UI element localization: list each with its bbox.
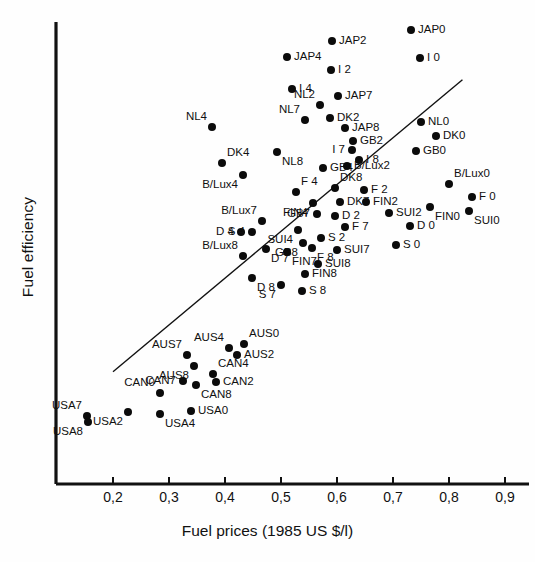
data-point-label: CAN8 bbox=[201, 389, 232, 401]
data-point-label: FIN8 bbox=[312, 268, 337, 280]
data-point bbox=[412, 147, 420, 155]
data-point-label: F 0 bbox=[479, 191, 496, 203]
data-point bbox=[240, 340, 248, 348]
data-point-label: AUS0 bbox=[249, 328, 279, 340]
data-point bbox=[326, 114, 334, 122]
data-point-label: B/Lux8 bbox=[202, 240, 238, 252]
data-point-label: JAP2 bbox=[339, 35, 367, 47]
data-point-label: SUI2 bbox=[396, 207, 422, 219]
data-point bbox=[209, 370, 217, 378]
data-point bbox=[183, 351, 191, 359]
data-point bbox=[416, 54, 424, 62]
data-point bbox=[341, 223, 349, 231]
data-point bbox=[331, 184, 339, 192]
data-point-label: SUI7 bbox=[344, 244, 370, 256]
data-point-label: SUI0 bbox=[474, 215, 500, 227]
x-tick-label: 0,7 bbox=[373, 489, 413, 505]
data-point-label: B/Lux2 bbox=[354, 160, 390, 172]
data-point bbox=[348, 146, 356, 154]
data-point-label: USA8 bbox=[53, 426, 83, 438]
data-point bbox=[331, 212, 339, 220]
data-point bbox=[362, 198, 370, 206]
data-point bbox=[407, 26, 415, 34]
data-point-label: NL0 bbox=[428, 116, 449, 128]
data-point bbox=[385, 209, 393, 217]
data-point-label: JAP8 bbox=[352, 122, 380, 134]
data-point bbox=[298, 287, 306, 295]
data-point bbox=[317, 234, 325, 242]
data-point-label: USA7 bbox=[52, 400, 82, 412]
data-point-label: S 8 bbox=[309, 285, 326, 297]
data-point bbox=[313, 210, 321, 218]
data-point-label: SUI4 bbox=[267, 234, 293, 246]
data-point bbox=[392, 241, 400, 249]
data-point-label: CAN2 bbox=[223, 376, 254, 388]
data-point-label: DK0 bbox=[443, 130, 465, 142]
x-tick-label: 0,6 bbox=[317, 489, 357, 505]
data-point-label: CAN0 bbox=[124, 377, 155, 389]
data-point bbox=[319, 164, 327, 172]
data-point bbox=[225, 344, 233, 352]
data-point-label: DK4 bbox=[227, 147, 249, 159]
data-point-label: FIN2 bbox=[373, 196, 398, 208]
data-point bbox=[208, 123, 216, 131]
data-point bbox=[301, 116, 309, 124]
data-point-label: B/Lux4 bbox=[202, 179, 238, 191]
data-point bbox=[432, 132, 440, 140]
data-point bbox=[292, 188, 300, 196]
data-point bbox=[124, 408, 132, 416]
data-point bbox=[283, 53, 291, 61]
data-point-label: NL8 bbox=[282, 156, 303, 168]
data-point bbox=[190, 362, 198, 370]
data-point bbox=[360, 186, 368, 194]
data-point-label: AUS4 bbox=[194, 332, 224, 344]
data-point bbox=[406, 222, 414, 230]
data-point bbox=[248, 228, 256, 236]
data-point bbox=[465, 207, 473, 215]
data-point-label: S 7 bbox=[259, 289, 276, 301]
data-point-label: NL2 bbox=[294, 89, 315, 101]
data-point bbox=[248, 274, 256, 282]
data-point bbox=[445, 180, 453, 188]
data-point-label: JAP4 bbox=[294, 51, 322, 63]
data-point-label: F 2 bbox=[371, 184, 388, 196]
data-point bbox=[426, 203, 434, 211]
data-point-label: CAN4 bbox=[218, 358, 249, 370]
data-point bbox=[299, 239, 307, 247]
data-point bbox=[308, 244, 316, 252]
scatter-plot-figure: JAP2JAP0JAP4I 0I 2I 4JAP7NL2NL7DK2NL4JAP… bbox=[0, 0, 535, 562]
data-point bbox=[301, 270, 309, 278]
data-point bbox=[341, 124, 349, 132]
data-point-label: D 0 bbox=[417, 220, 435, 232]
data-point bbox=[328, 37, 336, 45]
data-point-label: B/Lux0 bbox=[454, 168, 490, 180]
data-point bbox=[468, 193, 476, 201]
data-point-label: GB2 bbox=[360, 135, 383, 147]
data-point bbox=[316, 101, 324, 109]
data-point bbox=[218, 159, 226, 167]
data-point bbox=[239, 252, 247, 260]
data-point bbox=[179, 377, 187, 385]
data-point-label: USA4 bbox=[165, 418, 195, 430]
data-point-label: F 7 bbox=[352, 221, 369, 233]
x-tick-label: 0,4 bbox=[205, 489, 245, 505]
x-tick-label: 0,3 bbox=[149, 489, 189, 505]
data-point-label: S 2 bbox=[328, 232, 345, 244]
data-point bbox=[262, 245, 270, 253]
data-point-label: GB7 bbox=[287, 208, 310, 220]
data-point-label: F 4 bbox=[301, 176, 318, 188]
data-point bbox=[84, 418, 92, 426]
data-point-label: S 4 bbox=[228, 226, 245, 238]
data-point-label: NL7 bbox=[279, 104, 300, 116]
data-point bbox=[327, 66, 335, 74]
data-point-label: DK8 bbox=[340, 172, 362, 184]
data-point bbox=[239, 171, 247, 179]
x-tick-label: 0,5 bbox=[261, 489, 301, 505]
data-point bbox=[192, 381, 200, 389]
data-point bbox=[156, 389, 164, 397]
data-point bbox=[336, 198, 344, 206]
data-point bbox=[187, 407, 195, 415]
data-point bbox=[273, 148, 281, 156]
data-point bbox=[283, 248, 291, 256]
data-point-label: I 0 bbox=[427, 52, 440, 64]
